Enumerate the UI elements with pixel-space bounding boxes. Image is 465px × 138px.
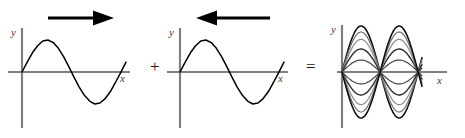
standing-wave-plot: y x [325,0,465,138]
y-axis-label: y [10,26,16,38]
panel-standing-wave: y x [325,0,465,138]
wave-right-plot: y x [0,0,150,138]
y-axis-label: y [168,26,174,38]
arrow-left-icon [196,11,270,26]
equals-operator: = [306,58,316,75]
panel-wave-left: y x [160,0,305,138]
standing-wave-snapshots [342,26,422,118]
y-axis-label: y [330,23,336,35]
panel-wave-right: y x [0,0,150,138]
wave-superposition-figure: y x + y x = [0,0,465,138]
plus-operator: + [150,58,160,75]
wave-left-plot: y x [160,0,305,138]
x-axis-label: x [436,74,442,86]
arrow-right-icon [48,11,114,26]
